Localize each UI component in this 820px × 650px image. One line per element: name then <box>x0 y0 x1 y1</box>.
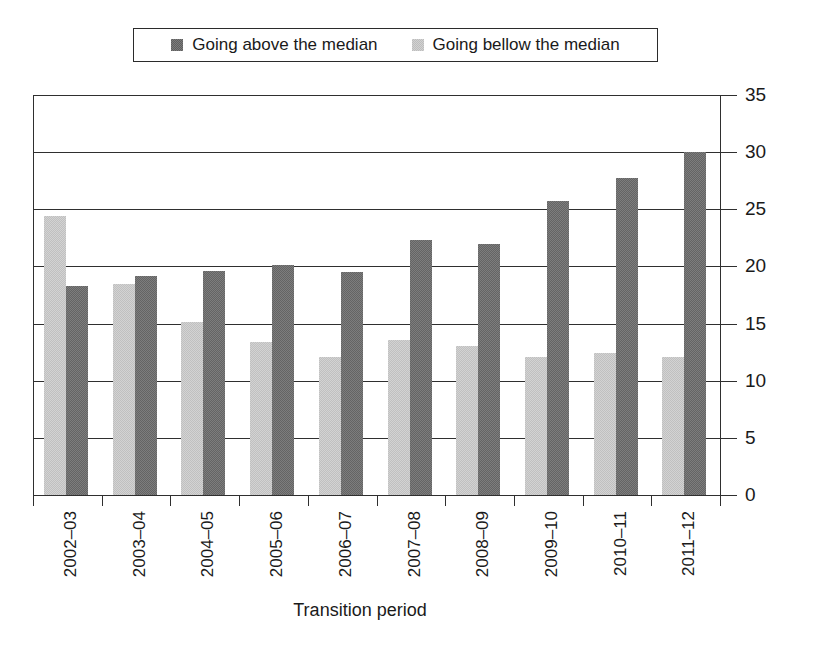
x-axis-tick-label: 2006–07 <box>336 511 356 577</box>
y-axis-tick-label: 10 <box>745 370 766 392</box>
legend-label-above-median: Going above the median <box>192 35 377 55</box>
bar-above-median <box>410 240 432 495</box>
bar-bellow-median <box>662 357 684 495</box>
y-axis-tick-label: 15 <box>745 313 766 335</box>
y-axis-tick-mark <box>720 438 737 439</box>
gridline <box>33 152 720 153</box>
y-axis-tick-label: 0 <box>745 484 756 506</box>
x-axis-tick-mark <box>583 495 584 506</box>
bar-above-median <box>272 265 294 495</box>
x-axis-tick-mark <box>33 495 34 506</box>
x-axis-tick-label: 2009–10 <box>542 511 562 577</box>
bar-bellow-median <box>44 216 66 495</box>
gridline <box>33 95 720 96</box>
x-axis-tick-label: 2003–04 <box>130 511 150 577</box>
bar-above-median <box>203 271 225 495</box>
bar-above-median <box>547 201 569 495</box>
y-axis-tick-mark <box>720 152 737 153</box>
bar-above-median <box>684 152 706 495</box>
chart-plot-area: 05101520253035 2002–032003–042004–052005… <box>33 95 720 495</box>
dark-gray-swatch-icon <box>171 39 183 51</box>
y-axis-tick-label: 30 <box>745 141 766 163</box>
x-axis-tick-mark <box>102 495 103 506</box>
legend-label-bellow-median: Going bellow the median <box>433 35 620 55</box>
bar-above-median <box>616 178 638 495</box>
bar-bellow-median <box>113 284 135 495</box>
bar-above-median <box>135 276 157 495</box>
x-axis-tick-label: 2002–03 <box>61 511 81 577</box>
y-axis-tick-label: 35 <box>745 84 766 106</box>
x-axis-tick-mark <box>720 495 721 506</box>
bar-above-median <box>341 272 363 495</box>
bar-bellow-median <box>319 357 341 495</box>
bar-bellow-median <box>456 346 478 495</box>
x-axis-tick-mark <box>651 495 652 506</box>
bar-bellow-median <box>525 357 547 495</box>
bar-bellow-median <box>250 342 272 495</box>
bar-bellow-median <box>388 340 410 495</box>
bar-above-median <box>66 286 88 495</box>
bar-bellow-median <box>181 322 203 495</box>
x-axis-title: Transition period <box>0 600 720 621</box>
x-axis-tick-mark <box>239 495 240 506</box>
light-gray-swatch-icon <box>412 39 424 51</box>
y-axis-tick-mark <box>720 324 737 325</box>
x-axis-tick-label: 2008–09 <box>473 511 493 577</box>
axis-line-bottom <box>33 495 720 496</box>
x-axis-tick-label: 2005–06 <box>267 511 287 577</box>
y-axis-tick-label: 25 <box>745 198 766 220</box>
bar-bellow-median <box>594 353 616 495</box>
x-axis-tick-label: 2011–12 <box>679 511 699 576</box>
x-axis-tick-mark <box>308 495 309 506</box>
bar-above-median <box>478 244 500 495</box>
y-axis-tick-label: 20 <box>745 255 766 277</box>
axis-line-left <box>33 95 34 495</box>
y-axis-tick-mark <box>720 266 737 267</box>
legend-entry-above-median: Going above the median <box>171 35 377 55</box>
y-axis-tick-label: 5 <box>745 427 756 449</box>
legend-entry-bellow-median: Going bellow the median <box>412 35 620 55</box>
x-axis-tick-label: 2007–08 <box>405 511 425 577</box>
y-axis-tick-mark <box>720 495 737 496</box>
x-axis-tick-mark <box>377 495 378 506</box>
x-axis-tick-label: 2010–11 <box>611 511 631 576</box>
chart-legend: Going above the median Going bellow the … <box>133 28 658 62</box>
x-axis-tick-mark <box>514 495 515 506</box>
x-axis-tick-mark <box>445 495 446 506</box>
x-axis-tick-mark <box>170 495 171 506</box>
x-axis-tick-label: 2004–05 <box>198 511 218 577</box>
y-axis-tick-mark <box>720 95 737 96</box>
axis-line-right <box>720 95 721 495</box>
y-axis-tick-mark <box>720 381 737 382</box>
y-axis-tick-mark <box>720 209 737 210</box>
